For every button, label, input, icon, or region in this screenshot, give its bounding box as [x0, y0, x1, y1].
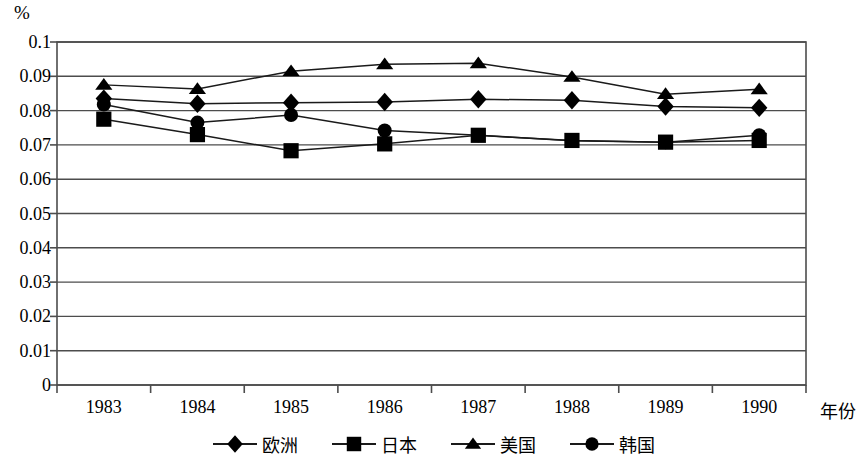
- x-axis-tick-label: 1987: [460, 397, 496, 418]
- data-point-marker-triangle: [95, 78, 112, 90]
- x-axis-title: 年份: [820, 397, 856, 423]
- data-point-marker-diamond: [751, 99, 767, 117]
- data-point-marker-diamond: [470, 90, 486, 108]
- x-axis-tick-label: 1985: [273, 397, 309, 418]
- data-point-marker-circle: [378, 123, 392, 137]
- legend-symbol-diamond: [223, 432, 247, 456]
- data-point-marker-circle: [659, 135, 673, 149]
- data-point-marker-circle: [284, 108, 298, 122]
- legend-symbol-triangle: [461, 432, 485, 456]
- plot-area: [0, 0, 868, 464]
- x-axis-tick-label: 1984: [179, 397, 215, 418]
- data-point-marker-diamond: [376, 93, 392, 111]
- data-point-marker-triangle: [751, 83, 768, 95]
- data-point-marker-diamond: [564, 91, 580, 109]
- legend-item-square: 日本: [332, 431, 417, 457]
- legend-label: 欧洲: [262, 431, 298, 457]
- legend-marker-diamond-icon: [213, 436, 257, 452]
- legend-item-circle: 韩国: [570, 431, 655, 457]
- chart-legend: 欧洲日本美国韩国: [0, 431, 868, 457]
- data-point-marker-square: [96, 112, 111, 127]
- data-point-marker-diamond: [657, 97, 673, 115]
- legend-marker-circle-icon: [570, 436, 614, 452]
- chart-figure: % 0.10.090.080.070.060.050.040.030.020.0…: [0, 0, 868, 464]
- legend-symbol-square: [342, 432, 366, 456]
- x-axis-tick-label: 1986: [367, 397, 403, 418]
- data-point-marker-square: [377, 136, 392, 151]
- data-point-marker-circle: [97, 97, 111, 111]
- legend-label: 韩国: [619, 431, 655, 457]
- data-point-marker-triangle: [470, 56, 487, 68]
- data-point-marker-circle: [565, 134, 579, 148]
- x-axis-tick-label: 1988: [554, 397, 590, 418]
- x-axis-tick-label: 1989: [648, 397, 684, 418]
- legend-symbol-circle: [580, 432, 604, 456]
- data-point-marker-circle: [190, 116, 204, 130]
- legend-label: 美国: [500, 431, 536, 457]
- x-axis-tick-label: 1990: [741, 397, 777, 418]
- data-point-marker-square: [283, 143, 298, 158]
- legend-marker-triangle-icon: [451, 436, 495, 452]
- legend-label: 日本: [381, 431, 417, 457]
- data-point-marker-circle: [752, 128, 766, 142]
- data-point-marker-triangle: [376, 58, 393, 70]
- data-point-marker-circle: [471, 128, 485, 142]
- x-axis-tick-label: 1983: [86, 397, 122, 418]
- legend-item-diamond: 欧洲: [213, 431, 298, 457]
- legend-item-triangle: 美国: [451, 431, 536, 457]
- legend-marker-square-icon: [332, 436, 376, 452]
